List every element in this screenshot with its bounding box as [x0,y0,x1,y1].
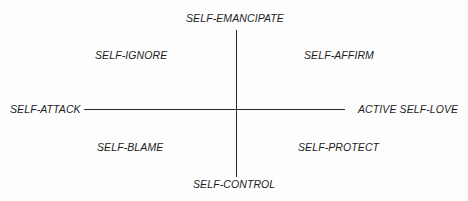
axis-label-left: SELF-ATTACK [10,103,81,115]
quadrant-label-top-right: SELF-AFFIRM [304,49,374,61]
quadrant-label-bottom-left: SELF-BLAME [97,141,163,153]
horizontal-axis-line [84,109,345,110]
vertical-axis-line [236,30,237,177]
self-relationship-quadrant-diagram: SELF-EMANCIPATE SELF-CONTROL SELF-ATTACK… [0,0,468,201]
quadrant-label-bottom-right: SELF-PROTECT [298,141,379,153]
axis-label-bottom: SELF-CONTROL [193,178,275,190]
axis-label-top: SELF-EMANCIPATE [186,12,284,24]
quadrant-label-top-left: SELF-IGNORE [95,49,167,61]
axis-label-right: ACTIVE SELF-LOVE [358,103,458,115]
